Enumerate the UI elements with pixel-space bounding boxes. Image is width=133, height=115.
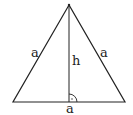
label-right-side: a xyxy=(100,45,108,60)
label-left-side: a xyxy=(31,45,39,60)
triangle-diagram: a a h a xyxy=(0,0,133,115)
triangle-svg: a a h a xyxy=(0,0,133,115)
right-angle-dot xyxy=(71,98,72,99)
apex-dot xyxy=(68,4,70,6)
label-base: a xyxy=(66,101,74,115)
label-height: h xyxy=(72,53,81,68)
